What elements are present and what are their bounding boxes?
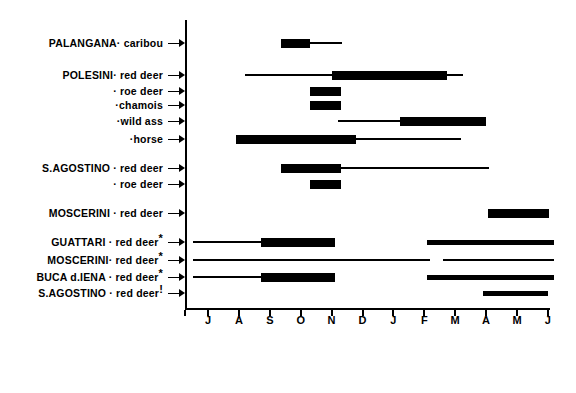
x-tick-label-3: O — [291, 314, 311, 326]
x-tick-label-10: M — [507, 314, 527, 326]
row-label-5: ·horse — [0, 133, 163, 145]
x-tick-label-0: J — [198, 314, 218, 326]
row-arrow-icon-6 — [168, 164, 185, 173]
row-label-text: PALANGANA· caribou — [49, 37, 163, 49]
arrow-head — [179, 101, 185, 109]
bar-segment-10-1 — [443, 259, 554, 261]
x-tick-label-6: J — [383, 314, 403, 326]
row-label-text: POLESINI· red deer — [63, 69, 163, 81]
arrow-head — [179, 256, 185, 264]
x-tick-label-2: S — [260, 314, 280, 326]
row-label-4: ·wild ass — [0, 115, 163, 127]
row-arrow-icon-0 — [168, 39, 185, 48]
arrow-head — [179, 71, 185, 79]
row-label-text: MOSCERINI · red deer — [49, 207, 163, 219]
row-label-text: · roe deer — [113, 85, 163, 97]
x-tick-label-4: N — [322, 314, 342, 326]
y-axis-line — [185, 20, 187, 310]
row-label-0: PALANGANA· caribou — [0, 37, 163, 49]
arrow-head — [179, 87, 185, 95]
row-label-12: S.AGOSTINO · red deer! — [0, 287, 163, 299]
x-tick-label-7: F — [414, 314, 434, 326]
arrow-head — [179, 209, 185, 217]
bar-segment-5-0 — [236, 135, 357, 144]
arrow-head — [179, 164, 185, 172]
row-arrow-icon-10 — [168, 256, 185, 265]
row-arrow-icon-2 — [168, 87, 185, 96]
bar-segment-11-2 — [427, 275, 554, 280]
arrow-head — [179, 39, 185, 47]
row-label-marker: * — [159, 232, 163, 244]
row-label-8: MOSCERINI · red deer — [0, 207, 163, 219]
bar-segment-10-0 — [193, 259, 431, 261]
row-label-6: S.AGOSTINO · red deer — [0, 162, 163, 174]
row-label-text: S.AGOSTINO · red deer! — [38, 287, 163, 299]
row-arrow-icon-1 — [168, 71, 185, 80]
row-label-3: ·chamois — [0, 99, 163, 111]
arrow-head — [179, 289, 185, 297]
bar-segment-6-1 — [341, 167, 489, 169]
arrow-head — [179, 180, 185, 188]
bar-segment-1-2 — [447, 74, 462, 76]
bar-segment-1-0 — [245, 74, 332, 76]
bar-segment-6-0 — [281, 164, 341, 173]
row-arrow-icon-11 — [168, 273, 185, 282]
row-arrow-icon-7 — [168, 180, 185, 189]
bar-segment-9-0 — [193, 241, 261, 243]
bar-segment-0-1 — [310, 42, 342, 44]
bar-segment-1-1 — [332, 71, 448, 80]
bar-segment-2-0 — [310, 87, 341, 96]
row-label-text: ·wild ass — [117, 115, 163, 127]
x-tick-label-8: M — [445, 314, 465, 326]
row-label-text: · roe deer — [113, 178, 163, 190]
row-label-text: GUATTARI · red deer* — [51, 236, 163, 248]
row-label-11: BUCA d.IENA · red deer* — [0, 271, 163, 283]
bar-segment-4-0 — [338, 120, 400, 122]
bar-segment-11-1 — [261, 273, 335, 282]
bar-segment-7-0 — [310, 180, 341, 189]
row-arrow-icon-3 — [168, 101, 185, 110]
row-arrow-icon-5 — [168, 135, 185, 144]
row-label-2: · roe deer — [0, 85, 163, 97]
row-label-9: GUATTARI · red deer* — [0, 236, 163, 248]
row-label-7: · roe deer — [0, 178, 163, 190]
seasonality-chart: JASONDJFMAMJ PALANGANA· caribouPOLESINI·… — [0, 0, 576, 393]
row-label-10: MOSCERINI· red deer* — [0, 254, 163, 266]
row-label-marker: ! — [159, 283, 163, 295]
row-arrow-icon-9 — [168, 238, 185, 247]
row-label-text: MOSCERINI· red deer* — [47, 254, 163, 266]
bar-segment-5-1 — [356, 138, 461, 140]
bar-segment-9-2 — [427, 240, 554, 245]
row-label-marker: * — [159, 250, 163, 262]
x-tick-label-9: A — [476, 314, 496, 326]
x-axis-endcap-0 — [184, 310, 186, 316]
arrow-head — [179, 273, 185, 281]
arrow-head — [179, 238, 185, 246]
arrow-head — [179, 117, 185, 125]
bar-segment-12-0 — [483, 291, 548, 296]
row-label-text: S.AGOSTINO · red deer — [42, 162, 163, 174]
bar-segment-4-1 — [400, 117, 487, 126]
row-label-text: BUCA d.IENA · red deer* — [36, 271, 163, 283]
x-tick-label-1: A — [229, 314, 249, 326]
row-label-text: ·horse — [130, 133, 163, 145]
row-label-1: POLESINI· red deer — [0, 69, 163, 81]
bar-segment-9-1 — [261, 238, 335, 247]
x-axis-endcap-1 — [547, 310, 549, 316]
row-label-marker: * — [159, 267, 163, 279]
x-tick-label-5: D — [353, 314, 373, 326]
bar-segment-11-0 — [193, 276, 261, 278]
row-label-text: ·chamois — [115, 99, 163, 111]
row-arrow-icon-4 — [168, 117, 185, 126]
bar-segment-0-0 — [281, 39, 310, 48]
arrow-head — [179, 135, 185, 143]
row-arrow-icon-12 — [168, 289, 185, 298]
bar-segment-3-0 — [310, 101, 341, 110]
bar-segment-8-0 — [488, 209, 550, 218]
row-arrow-icon-8 — [168, 209, 185, 218]
